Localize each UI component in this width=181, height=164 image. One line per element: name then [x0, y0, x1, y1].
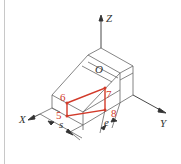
y-arrow-icon: [158, 108, 166, 113]
point-8-label: 8: [111, 107, 117, 119]
origin-label: O: [95, 63, 103, 75]
y-axis: [133, 95, 162, 111]
dimension-s-label: s: [59, 118, 63, 130]
point-5: [66, 115, 69, 118]
isometric-diagram: Z O X Y 6 7 8 5 s e: [0, 0, 181, 164]
z-axis-label: Z: [106, 12, 113, 24]
dimension-e-label: e: [104, 116, 109, 128]
z-arrow-icon: [99, 15, 103, 21]
point-6-label: 6: [60, 91, 66, 103]
x-arrow-icon: [28, 115, 35, 120]
y-axis-label: Y: [160, 117, 168, 129]
point-8: [104, 109, 107, 112]
solid-body-lines: [40, 48, 133, 140]
point-6: [66, 102, 69, 105]
point-7-label: 7: [106, 88, 112, 100]
s-arrow-left-icon: [48, 121, 54, 125]
x-axis-label: X: [18, 113, 27, 125]
